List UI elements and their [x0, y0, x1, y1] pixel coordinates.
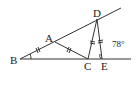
- label-c: C: [84, 60, 91, 72]
- label-b: B: [10, 54, 17, 66]
- equal-tick-ac: [67, 47, 71, 53]
- label-e: E: [101, 60, 108, 72]
- segment-cd: [88, 19, 97, 59]
- label-a: A: [45, 32, 53, 44]
- segment-ac: [55, 42, 88, 59]
- label-d: D: [93, 7, 101, 19]
- angle-label-78: 78°: [112, 39, 125, 49]
- ray-bd: [20, 8, 121, 59]
- angle-arc-b: [30, 54, 31, 59]
- segment-de: [97, 19, 102, 59]
- angle-arc-e: [100, 54, 101, 59]
- geometry-diagram: A B C D E 78°: [0, 0, 138, 86]
- equal-tick-cd: [90, 41, 95, 44]
- equal-tick-de: [98, 40, 103, 43]
